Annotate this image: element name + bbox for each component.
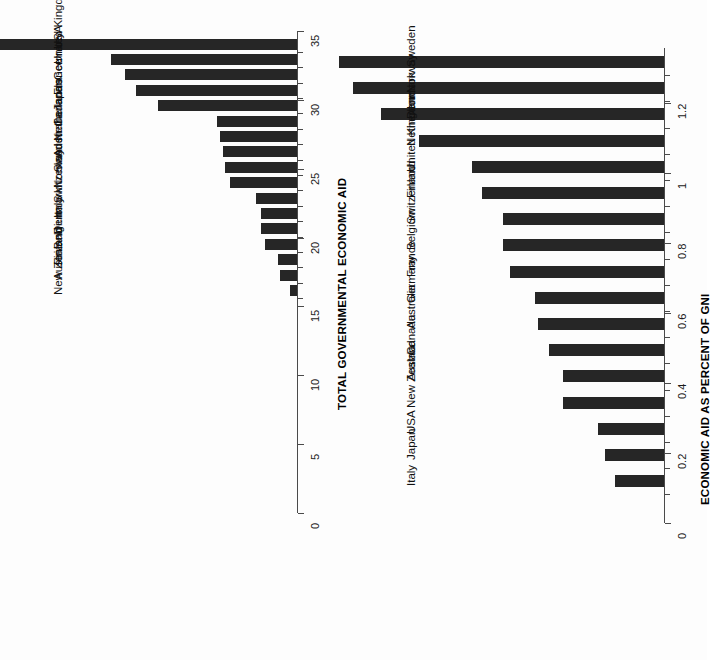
- right-category-tick: [665, 180, 670, 181]
- bar: [290, 285, 297, 296]
- right-axis-title: ECONOMIC AID AS PERCENT OF GNI: [699, 293, 711, 505]
- category-label: Japan: [405, 429, 417, 460]
- right-axis-tick-label: 0: [676, 533, 688, 539]
- right-category-tick: [665, 390, 670, 391]
- left-category-tick: [298, 206, 303, 207]
- right-category-tick: [665, 494, 670, 495]
- bar: [563, 370, 665, 382]
- left-category-tick: [298, 267, 303, 268]
- plot-area-right: 00.20.40.60.811.2SwedenNorwayDenmarkNeth…: [353, 0, 707, 660]
- left-category-tick: [298, 175, 303, 176]
- right-axis-tick: [665, 173, 671, 174]
- bar: [225, 162, 297, 173]
- left-axis-tick: [298, 238, 304, 239]
- left-axis-tick-label: 10: [309, 379, 321, 391]
- left-axis-tick: [298, 375, 304, 376]
- left-category-tick: [298, 252, 303, 253]
- left-category-tick: [298, 298, 303, 299]
- category-label: New Zealand: [405, 340, 417, 408]
- left-category-tick: [298, 190, 303, 191]
- bar: [353, 82, 665, 94]
- bar: [220, 131, 297, 142]
- bar: [230, 177, 297, 188]
- right-category-tick: [665, 154, 670, 155]
- bar: [510, 266, 664, 278]
- right-category-tick: [665, 468, 670, 469]
- left-axis-tick: [298, 513, 304, 514]
- category-label: New Zealand: [52, 228, 64, 296]
- left-category-tick: [298, 160, 303, 161]
- bar: [125, 69, 297, 80]
- bar: [615, 475, 664, 487]
- left-category-tick: [298, 83, 303, 84]
- bar: [0, 39, 297, 50]
- right-category-tick: [665, 363, 670, 364]
- bar: [278, 254, 297, 265]
- bar: [503, 213, 664, 225]
- bar: [111, 54, 297, 65]
- left-axis-tick-label: 30: [309, 104, 321, 116]
- bar: [503, 239, 664, 251]
- left-category-tick: [298, 52, 303, 53]
- bar: [261, 208, 297, 219]
- bar: [339, 56, 665, 68]
- right-axis-tick: [665, 453, 671, 454]
- right-category-tick: [665, 285, 670, 286]
- left-axis-tick: [298, 444, 304, 445]
- right-category-tick: [665, 101, 670, 102]
- bar: [256, 193, 297, 204]
- right-category-axis-line: [664, 48, 665, 496]
- left-axis-tick-label: 20: [309, 241, 321, 253]
- right-category-tick: [665, 206, 670, 207]
- right-axis-tick-label: 1: [676, 183, 688, 189]
- left-category-tick: [298, 221, 303, 222]
- left-axis-tick-label: 25: [309, 172, 321, 184]
- left-category-axis-line: [297, 36, 298, 299]
- right-axis-tick: [665, 383, 671, 384]
- left-category-tick: [298, 98, 303, 99]
- left-axis-tick: [298, 100, 304, 101]
- left-category-tick: [298, 283, 303, 284]
- right-category-tick: [665, 75, 670, 76]
- bar: [265, 239, 297, 250]
- left-axis-title: TOTAL GOVERNMENTAL ECONOMIC AID: [336, 178, 348, 410]
- right-axis-tick-label: 1.2: [676, 104, 688, 119]
- right-category-tick: [665, 311, 670, 312]
- bar: [605, 449, 665, 461]
- left-axis-tick-label: 0: [309, 523, 321, 529]
- left-category-tick: [298, 144, 303, 145]
- left-axis-tick-label: 35: [309, 35, 321, 47]
- left-category-tick: [298, 129, 303, 130]
- chart-panel-aid-percent-gni: 00.20.40.60.811.2SwedenNorwayDenmarkNeth…: [353, 0, 707, 660]
- bar: [538, 318, 664, 330]
- right-category-tick: [665, 232, 670, 233]
- right-category-tick: [665, 442, 670, 443]
- right-axis-tick: [665, 103, 671, 104]
- bar: [549, 344, 665, 356]
- left-axis-tick: [298, 31, 304, 32]
- bar: [598, 423, 665, 435]
- right-axis-tick-label: 0.2: [676, 454, 688, 469]
- bar: [472, 161, 665, 173]
- right-axis-tick: [665, 523, 671, 524]
- right-axis-tick-label: 0.4: [676, 384, 688, 399]
- bar: [136, 85, 297, 96]
- category-label: Italy: [405, 465, 417, 486]
- bar: [381, 108, 665, 120]
- left-category-tick: [298, 237, 303, 238]
- left-axis-tick-label: 15: [309, 310, 321, 322]
- right-category-tick: [665, 416, 670, 417]
- bar: [158, 100, 297, 111]
- right-category-tick: [665, 259, 670, 260]
- chart-panel-total-aid: 05101520253035USAUnited KingdomGermanyFr…: [0, 0, 353, 660]
- right-axis-tick: [665, 313, 671, 314]
- bar: [535, 292, 665, 304]
- bar: [482, 187, 664, 199]
- plot-area-left: 05101520253035USAUnited KingdomGermanyFr…: [0, 0, 353, 660]
- left-axis-tick: [298, 306, 304, 307]
- right-axis-tick: [665, 243, 671, 244]
- left-axis-tick: [298, 169, 304, 170]
- bar: [223, 146, 297, 157]
- left-axis-tick-label: 5: [309, 454, 321, 460]
